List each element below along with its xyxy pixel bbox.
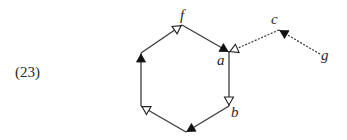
hexagon-graph-diagram: (23) f a b c g: [0, 0, 347, 140]
node-label-c: c: [271, 11, 278, 27]
node-label-g: g: [321, 47, 329, 63]
node-label-f: f: [180, 7, 186, 23]
open-arrowhead-icon: [230, 44, 239, 52]
open-arrowhead-icon: [172, 26, 181, 34]
node-label-b: b: [231, 104, 239, 120]
filled-arrowhead-icon: [137, 54, 146, 62]
filled-arrowhead-icon: [280, 31, 289, 39]
node-label-a: a: [217, 52, 225, 68]
example-number-label: (23): [15, 64, 40, 81]
